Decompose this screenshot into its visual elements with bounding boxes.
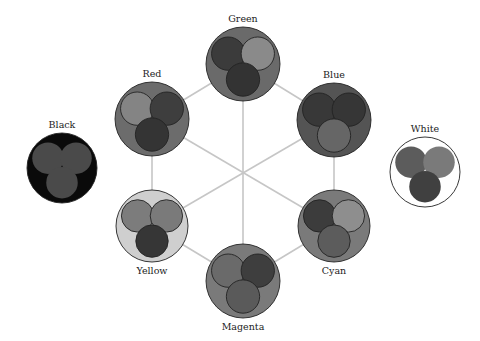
blue-label: Blue bbox=[323, 69, 345, 80]
green-inner-circle-bottom bbox=[226, 63, 259, 96]
node-red: Red bbox=[115, 68, 189, 156]
white-label: White bbox=[411, 123, 440, 134]
blue-inner-circle-bottom bbox=[317, 119, 350, 152]
node-magenta: Magenta bbox=[206, 244, 280, 332]
node-green: Green bbox=[206, 13, 280, 101]
yellow-label: Yellow bbox=[136, 265, 168, 276]
node-yellow: Yellow bbox=[116, 190, 188, 276]
node-blue: Blue bbox=[297, 69, 371, 157]
node-black: Black bbox=[27, 119, 97, 203]
red-inner-circle-bottom bbox=[135, 118, 168, 151]
green-label: Green bbox=[228, 13, 258, 24]
cyan-label: Cyan bbox=[322, 265, 346, 276]
cyan-inner-circle-bottom bbox=[318, 225, 350, 257]
node-white: White bbox=[390, 123, 460, 207]
yellow-inner-circle-bottom bbox=[136, 225, 168, 257]
white-inner-circle-bottom bbox=[409, 171, 441, 203]
node-cyan: Cyan bbox=[298, 190, 370, 276]
red-label: Red bbox=[143, 68, 162, 79]
black-inner-circle-bottom bbox=[46, 167, 78, 199]
black-label: Black bbox=[49, 119, 76, 130]
magenta-inner-circle-bottom bbox=[226, 280, 259, 313]
magenta-label: Magenta bbox=[222, 321, 265, 332]
color-mixing-diagram: GreenRedBlueYellowCyanMagentaBlackWhite bbox=[0, 0, 480, 341]
